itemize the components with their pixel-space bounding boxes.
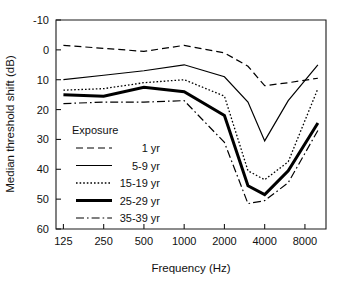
y-tick-label: 30 bbox=[37, 133, 49, 145]
y-tick-label: 10 bbox=[37, 74, 49, 86]
x-tick-label: 1000 bbox=[172, 235, 196, 247]
x-tick-label: 2000 bbox=[212, 235, 236, 247]
y-tick-label: 20 bbox=[37, 104, 49, 116]
legend-title: Exposure bbox=[72, 124, 118, 136]
y-axis-title: Median threshold shift (dB) bbox=[4, 55, 16, 193]
x-axis-title: Frequency (Hz) bbox=[151, 262, 230, 274]
threshold-shift-chart: -100102030405060 12525050010002000400080… bbox=[0, 0, 343, 287]
legend-entry-label: 35-39 yr bbox=[120, 212, 161, 224]
x-tick-label: 500 bbox=[135, 235, 153, 247]
y-tick-label: 40 bbox=[37, 163, 49, 175]
legend-entry-label: 5-9 yr bbox=[132, 160, 160, 172]
legend-entry-label: 15-19 yr bbox=[120, 177, 161, 189]
x-tick-label: 8000 bbox=[293, 235, 317, 247]
y-tick-label: 0 bbox=[43, 44, 49, 56]
y-tick-label: 60 bbox=[37, 223, 49, 235]
y-tick-label: -10 bbox=[33, 14, 49, 26]
legend-entry-label: 25-29 yr bbox=[120, 195, 161, 207]
legend-entry-label: 1 yr bbox=[142, 142, 161, 154]
y-tick-label: 50 bbox=[37, 193, 49, 205]
x-tick-label: 125 bbox=[54, 235, 72, 247]
x-tick-label: 4000 bbox=[252, 235, 276, 247]
x-tick-label: 250 bbox=[94, 235, 112, 247]
chart-svg: -100102030405060 12525050010002000400080… bbox=[0, 0, 343, 287]
